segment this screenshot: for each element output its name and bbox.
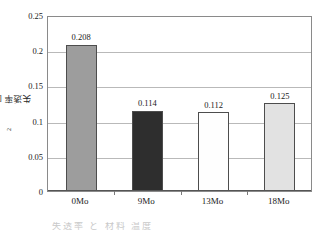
bar[interactable]: [264, 103, 295, 191]
bar-value-label: 0.125: [270, 92, 289, 101]
bar-value-label: 0.208: [72, 33, 91, 42]
bar-slot: 0.114: [114, 17, 180, 191]
bar[interactable]: [66, 45, 97, 191]
bar-value-label: 0.112: [204, 101, 223, 110]
bar-series: 0.2080.1140.1120.125: [48, 17, 311, 191]
y-tick-label: 0.1: [32, 117, 43, 127]
x-axis-tick: [247, 191, 248, 195]
x-axis-label: 18Mo: [268, 196, 290, 206]
x-axis-tick: [181, 191, 182, 195]
y-tick-label: 0: [39, 187, 43, 197]
plot-area: 0.2080.1140.1120.125: [47, 16, 312, 192]
caption-strip: 失透率 と 材料 温度: [0, 222, 332, 230]
bar-value-label: 0.114: [138, 99, 157, 108]
x-axis-label: 0Mo: [72, 196, 89, 206]
x-axis-label: 13Mo: [202, 196, 224, 206]
x-axis-category-labels: 0Mo9Mo13Mo18Mo: [47, 196, 312, 212]
x-axis-baseline: [48, 190, 311, 191]
caption-text: 失透率 と 材料 温度: [52, 222, 153, 230]
y-axis-tick-labels: 00.050.10.150.20.25: [18, 16, 46, 192]
x-axis-tick: [114, 191, 115, 195]
x-axis-label: 9Mo: [138, 196, 155, 206]
bar-slot: 0.208: [48, 17, 114, 191]
y-tick-label: 0.25: [28, 11, 43, 21]
y-tick-label: 0.15: [28, 81, 43, 91]
y-axis-title-exponent: 2: [7, 128, 13, 131]
bar[interactable]: [132, 111, 163, 191]
y-tick-label: 0.05: [28, 152, 43, 162]
bar[interactable]: [198, 112, 229, 191]
bar-chart-figure: 失透率 [g/(h・m2)] 00.050.10.150.20.25 0.208…: [0, 0, 332, 230]
y-tick-label: 0.2: [32, 46, 43, 56]
bar-slot: 0.125: [247, 17, 313, 191]
bar-slot: 0.112: [181, 17, 247, 191]
